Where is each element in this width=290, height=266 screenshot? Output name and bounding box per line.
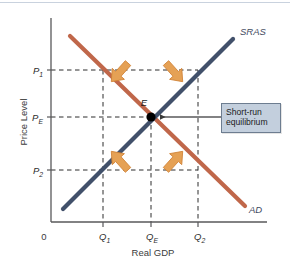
curve-ad <box>70 36 245 206</box>
callout-text: Short-run equilibrium <box>226 107 268 127</box>
svg-text:QE: QE <box>146 231 158 244</box>
y-tick-p1-sub: 1 <box>39 71 43 78</box>
diagram-canvas: E SRAS AD P1 PE P2 Q1 QE Q2 <box>0 0 290 266</box>
y-tick-pe-sub: E <box>38 118 43 125</box>
svg-text:Q1: Q1 <box>99 231 110 244</box>
curve-label-ad: AD <box>248 204 262 215</box>
svg-text:Q2: Q2 <box>194 231 205 244</box>
x-tick-q1-sub: 1 <box>106 237 110 244</box>
equilibrium-point-dot <box>146 112 155 121</box>
svg-text:PE: PE <box>32 112 43 125</box>
svg-text:P1: P1 <box>33 65 43 78</box>
y-tick-p2-sub: 2 <box>38 171 43 178</box>
x-axis-title: Real GDP <box>132 247 175 258</box>
x-tick-q2-sub: 2 <box>200 237 205 244</box>
equilibrium-point-label: E <box>141 97 148 108</box>
short-run-equilibrium-callout: Short-run equilibrium <box>221 103 281 133</box>
x-tick-labels: Q1 QE Q2 <box>99 231 205 244</box>
y-axis-title: Price Level <box>18 99 29 146</box>
arrow-down-left <box>160 58 189 88</box>
curve-label-sras: SRAS <box>240 26 267 37</box>
curve-sras <box>63 39 233 209</box>
y-tick-labels: P1 PE P2 <box>32 65 43 178</box>
svg-text:P2: P2 <box>33 165 43 178</box>
figure-container: E SRAS AD P1 PE P2 Q1 QE Q2 <box>0 0 290 266</box>
origin-label: 0 <box>41 231 46 242</box>
x-tick-qe-sub: E <box>153 237 158 244</box>
arrow-up-left <box>160 146 189 176</box>
